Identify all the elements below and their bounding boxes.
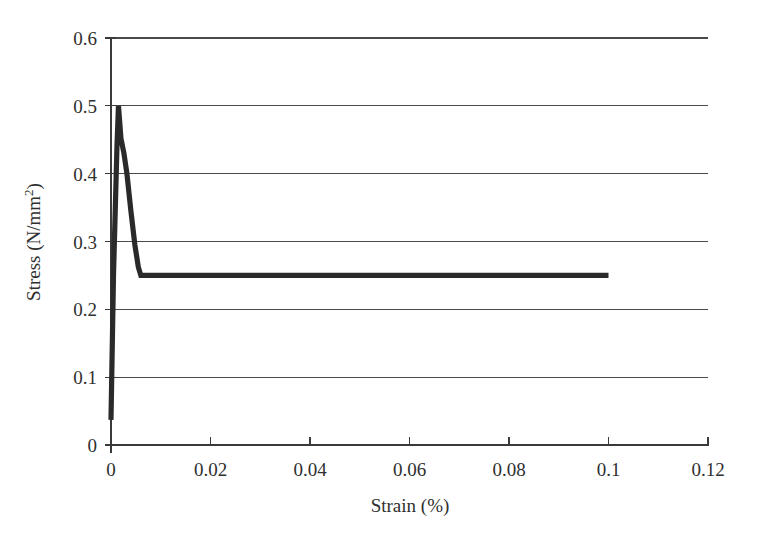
y-tick-label-0.3: 0.3 [73, 232, 97, 253]
x-axis-tick-labels: 00.020.040.060.080.10.12 [106, 459, 724, 480]
chart-canvas: 00.10.20.30.40.50.6 00.020.040.060.080.1… [0, 0, 764, 540]
y-axis-tick-labels: 00.10.20.30.40.50.6 [73, 28, 97, 456]
x-tick-label-0.1: 0.1 [597, 459, 621, 480]
x-tick-label-0.04: 0.04 [293, 459, 327, 480]
x-tick-label-0.02: 0.02 [194, 459, 227, 480]
y-tick-label-0.5: 0.5 [73, 96, 97, 117]
y-tick-label-0.1: 0.1 [73, 367, 97, 388]
gridlines-group [111, 38, 708, 445]
stress-strain-curve [111, 106, 609, 420]
y-tick-label-0: 0 [88, 435, 98, 456]
svg-text:Stress (N/mm2): Stress (N/mm2) [21, 183, 45, 301]
y-tick-label-0.4: 0.4 [73, 164, 97, 185]
y-tick-label-0.6: 0.6 [73, 28, 97, 49]
y-tick-label-0.2: 0.2 [73, 299, 97, 320]
y-axis-title-tail: ) [23, 183, 45, 189]
stress-strain-chart: 00.10.20.30.40.50.6 00.020.040.060.080.1… [0, 0, 764, 540]
x-tick-label-0.12: 0.12 [691, 459, 724, 480]
y-axis-title-base: Stress (N/mm [23, 196, 45, 301]
y-axis-title: Stress (N/mm2) [21, 183, 45, 301]
x-axis-title: Strain (%) [371, 495, 450, 517]
x-tick-label-0.08: 0.08 [492, 459, 525, 480]
x-tick-label-0: 0 [106, 459, 116, 480]
x-tick-label-0.06: 0.06 [393, 459, 426, 480]
